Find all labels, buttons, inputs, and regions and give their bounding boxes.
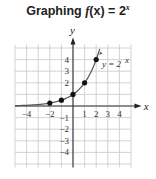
y-axis-arrow-icon: [71, 38, 76, 45]
x-tick-label: 1: [82, 109, 87, 119]
x-tick-label: 4: [117, 109, 122, 119]
y-tick-label: 3: [65, 66, 70, 76]
data-point: [59, 98, 64, 103]
exponential-curve: [15, 49, 100, 106]
y-tick-label: 4: [65, 55, 70, 65]
data-point: [94, 57, 99, 62]
x-axis-arrow-icon: [134, 104, 141, 109]
curve-annotation-exponent: x: [124, 55, 129, 65]
x-axis-label: x: [143, 100, 149, 112]
x-tick-label: 3: [106, 109, 111, 119]
data-point: [82, 80, 87, 85]
y-tick-label: −4: [59, 147, 69, 157]
y-tick-label: −2: [59, 124, 69, 134]
data-point: [70, 92, 75, 97]
y-tick-label: −1: [59, 113, 69, 123]
x-tick-label: 2: [94, 109, 99, 119]
curve-arrow-icon: [99, 51, 102, 55]
data-point: [47, 101, 52, 106]
exponential-graph: xy−4−21234432−1−2−3−4y = 2x: [0, 0, 156, 179]
x-tick-label: −4: [22, 109, 32, 119]
y-axis-label: y: [69, 24, 75, 36]
x-tick-label: −2: [45, 109, 55, 119]
y-tick-label: −3: [59, 136, 69, 146]
curve-annotation: y = 2: [101, 59, 122, 69]
y-tick-label: 2: [65, 78, 70, 88]
